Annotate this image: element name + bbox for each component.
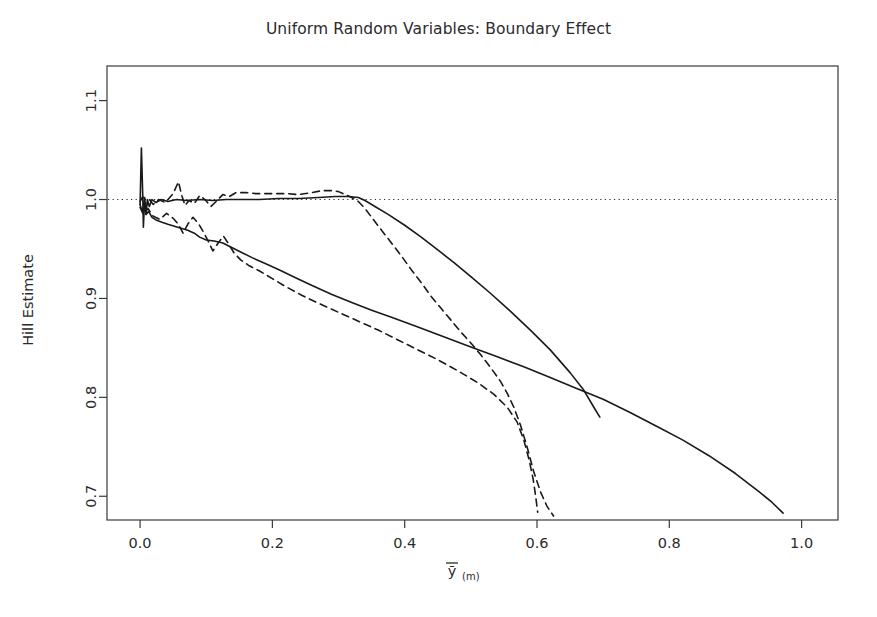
y-tick-label: 1.1 — [83, 89, 99, 112]
x-tick-label: 0.0 — [129, 535, 152, 551]
series-line-dashed-upper — [140, 182, 553, 516]
y-tick-label: 0.8 — [83, 386, 99, 409]
series-layer — [140, 148, 783, 516]
y-tick-label: 0.9 — [83, 287, 99, 310]
series-line-solid-lower — [140, 204, 783, 513]
series-line-solid-upper — [140, 148, 600, 417]
x-tick-label: 0.8 — [658, 535, 681, 551]
axis-layer — [107, 66, 838, 520]
plot-area: 0.00.20.40.60.81.00.70.80.91.01.1 Hill E… — [0, 0, 877, 617]
chart-figure: Uniform Random Variables: Boundary Effec… — [0, 0, 877, 617]
plot-border — [107, 66, 838, 520]
y-axis-title: Hill Estimate — [20, 254, 36, 346]
x-tick-label: 0.4 — [393, 535, 416, 551]
x-tick-label: 0.2 — [261, 535, 284, 551]
y-tick-label: 1.0 — [83, 188, 99, 211]
tick-layer: 0.00.20.40.60.81.00.70.80.91.01.1 — [83, 89, 813, 551]
x-tick-label: 1.0 — [790, 535, 813, 551]
x-axis-title-subscript: (m) — [462, 571, 480, 582]
y-tick-label: 0.7 — [83, 485, 99, 508]
x-tick-label: 0.6 — [525, 535, 548, 551]
x-axis-title: ȳ — [448, 563, 457, 579]
series-line-dashed-lower — [140, 207, 538, 512]
